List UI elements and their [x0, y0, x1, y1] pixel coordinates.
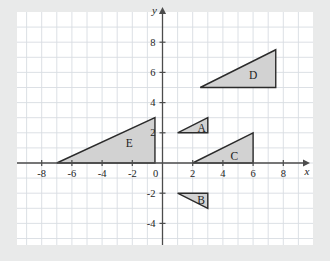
coordinate-plane-figure: -8-6-4-2024688642-2-4xyABCDE [0, 0, 330, 261]
shape-label-a: A [198, 122, 207, 134]
y-tick-label-8: 8 [150, 37, 155, 48]
x-tick-label--2: -2 [128, 168, 137, 179]
x-tick-label-4: 4 [220, 168, 226, 179]
y-tick-label-6: 6 [150, 67, 155, 78]
y-tick-label-4: 4 [150, 97, 156, 108]
y-tick-label--4: -4 [147, 218, 156, 229]
x-tick-label-8: 8 [281, 168, 286, 179]
x-tick-label-0: 0 [153, 168, 158, 179]
x-tick-label--6: -6 [68, 168, 77, 179]
y-tick-label--2: -2 [147, 188, 156, 199]
x-tick-label-2: 2 [190, 168, 195, 179]
shape-label-c: C [230, 150, 238, 162]
shape-label-d: D [249, 69, 257, 81]
x-tick-label-6: 6 [250, 168, 255, 179]
x-tick-label--4: -4 [98, 168, 107, 179]
y-tick-label-2: 2 [150, 127, 155, 138]
shape-label-e: E [126, 137, 133, 149]
x-axis-label: x [304, 165, 310, 177]
coordinate-plot: -8-6-4-2024688642-2-4xyABCDE [0, 0, 330, 261]
shape-label-b: B [197, 194, 205, 206]
y-axis-label: y [151, 4, 157, 16]
x-tick-label--8: -8 [37, 168, 46, 179]
